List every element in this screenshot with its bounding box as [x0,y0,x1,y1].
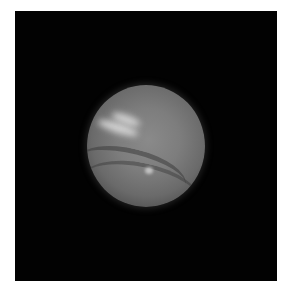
bright-cloud-spot [145,167,153,174]
space-background: Grayscale telescope image of a gas giant… [15,11,277,281]
planet-disc [87,85,205,207]
